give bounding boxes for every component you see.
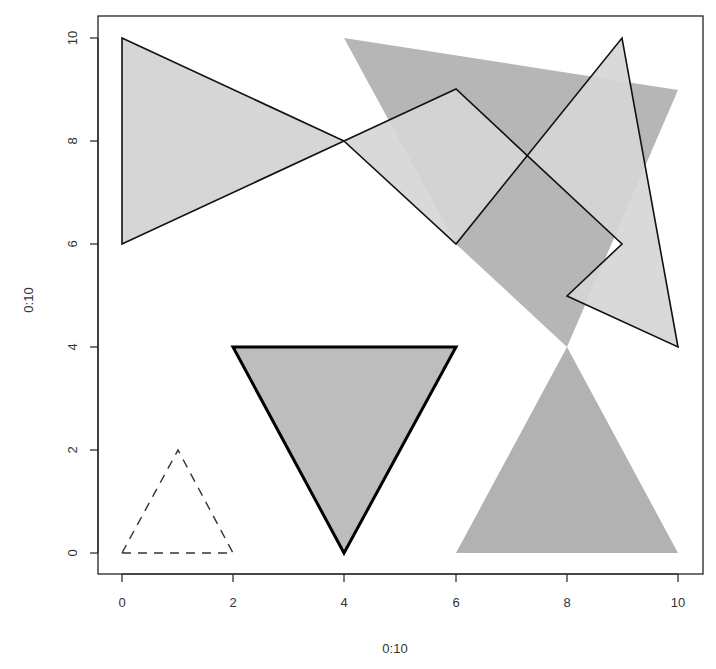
x-axis-label: 0:10 [382,641,407,656]
y-axis [90,38,98,553]
y-tick-label: 0 [65,549,80,556]
y-tick-label: 8 [65,137,80,144]
gray-bottom-triangle-no-border [456,347,678,553]
x-tick-label: 6 [452,595,459,610]
y-tick-label: 2 [65,446,80,453]
y-axis-label: 0:10 [21,287,36,312]
light-left-triangle [122,38,344,244]
polygon-plot: 0 2 4 6 8 10 0 2 4 6 8 10 0:10 0:10 [0,0,716,669]
y-tick-label: 6 [65,240,80,247]
thick-inverted-triangle [233,347,456,553]
x-tick-label: 8 [563,595,570,610]
x-axis [122,574,678,582]
x-tick-labels: 0 2 4 6 8 10 [118,595,685,610]
x-tick-label: 0 [118,595,125,610]
plot-shapes [122,38,678,553]
y-tick-label: 4 [65,343,80,350]
x-tick-label: 4 [340,595,347,610]
x-tick-label: 2 [229,595,236,610]
dashed-triangle [122,450,233,553]
y-tick-label: 10 [65,31,80,45]
x-tick-label: 10 [671,595,685,610]
y-tick-labels: 0 2 4 6 8 10 [65,31,80,557]
